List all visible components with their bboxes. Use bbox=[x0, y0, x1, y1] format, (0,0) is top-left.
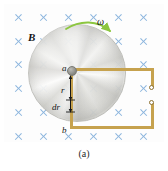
label-radius-r: r bbox=[61, 86, 65, 95]
terminal-lower[interactable] bbox=[149, 100, 154, 105]
label-contact-b: b bbox=[62, 126, 67, 135]
circuit-wire-bottom bbox=[70, 126, 154, 129]
conducting-disk bbox=[28, 24, 126, 122]
terminal-upper[interactable] bbox=[149, 85, 154, 90]
label-radial-width-dr: dr bbox=[52, 103, 60, 112]
label-magnetic-field: B bbox=[28, 32, 35, 43]
figure-container: B ω a r dr b (a) bbox=[0, 0, 168, 171]
circuit-wire-top bbox=[70, 68, 154, 71]
figure-caption: (a) bbox=[0, 148, 168, 159]
label-contact-a: a bbox=[62, 64, 67, 73]
circuit-wire-brush-axle bbox=[70, 70, 73, 128]
axle-hub bbox=[67, 66, 77, 76]
label-angular-velocity: ω bbox=[97, 17, 104, 27]
